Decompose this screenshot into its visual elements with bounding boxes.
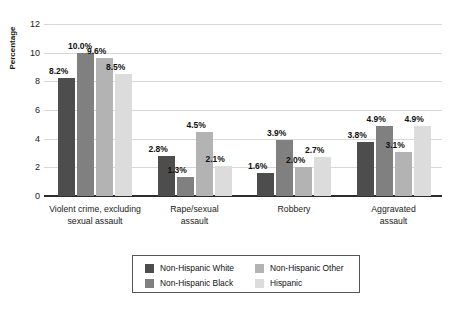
bar[interactable] (215, 166, 232, 196)
bar-value-label: 2.0% (286, 155, 305, 165)
bar[interactable] (295, 167, 312, 196)
bar-group: 1.6%3.9%2.0%2.7% (257, 24, 331, 196)
bar[interactable] (395, 152, 412, 196)
legend-item[interactable]: Non-Hispanic Other (255, 262, 344, 274)
bar-value-label: 2.1% (206, 154, 225, 164)
y-axis-tick-label: 4 (10, 134, 40, 144)
bar[interactable] (257, 173, 274, 196)
bar-value-label: 8.5% (106, 62, 125, 72)
bar-value-label: 3.9% (267, 128, 286, 138)
bar[interactable] (77, 53, 94, 196)
y-axis-tick-label: 10 (10, 48, 40, 58)
bar[interactable] (376, 126, 393, 196)
legend-color-swatch (255, 264, 264, 273)
bar[interactable] (115, 74, 132, 196)
legend-color-swatch (145, 279, 154, 288)
legend-label: Hispanic (270, 278, 302, 288)
plot-area: 8.2%10.0%9.6%8.5%2.8%1.3%4.5%2.1%1.6%3.9… (44, 24, 442, 196)
bar-value-label: 2.8% (149, 144, 168, 154)
bar[interactable] (276, 140, 293, 196)
bar-value-label: 1.3% (168, 165, 187, 175)
bar-group: 3.8%4.9%3.1%4.9% (357, 24, 431, 196)
x-axis-category-label: Aggravatedassault (329, 204, 459, 227)
bar[interactable] (357, 142, 374, 196)
bar[interactable] (58, 78, 75, 196)
bar-value-label: 1.6% (248, 161, 267, 171)
legend-label: Non-Hispanic Other (270, 263, 344, 273)
bar-value-label: 3.8% (348, 130, 367, 140)
bar-value-label: 4.9% (405, 114, 424, 124)
legend-item[interactable]: Hispanic (255, 277, 302, 289)
bar[interactable] (158, 156, 175, 196)
legend-item[interactable]: Non-Hispanic Black (145, 277, 233, 289)
bar-group: 8.2%10.0%9.6%8.5% (58, 24, 132, 196)
bar[interactable] (96, 58, 113, 196)
y-axis-tick-label: 8 (10, 76, 40, 86)
legend-label: Non-Hispanic Black (160, 278, 233, 288)
bar-value-label: 2.7% (305, 145, 324, 155)
legend-color-swatch (255, 279, 264, 288)
legend: Non-Hispanic WhiteNon-Hispanic BlackNon-… (132, 255, 360, 293)
legend-item[interactable]: Non-Hispanic White (145, 262, 234, 274)
bar-group: 2.8%1.3%4.5%2.1% (158, 24, 232, 196)
bar[interactable] (414, 126, 431, 196)
legend-label: Non-Hispanic White (160, 263, 234, 273)
y-axis-tick-labels: 121086420 (6, 24, 40, 196)
grouped-bar-chart: Percentage 121086420 8.2%10.0%9.6%8.5%2.… (0, 0, 459, 315)
y-axis-tick-label: 12 (10, 19, 40, 29)
bar-value-label: 9.6% (87, 46, 106, 56)
bar-value-label: 3.1% (386, 140, 405, 150)
legend-color-swatch (145, 264, 154, 273)
bar-value-label: 8.2% (49, 66, 68, 76)
y-axis-tick-label: 0 (10, 191, 40, 201)
bar-value-label: 4.9% (367, 114, 386, 124)
y-axis-tick-label: 2 (10, 162, 40, 172)
bar[interactable] (177, 177, 194, 196)
bar-value-label: 4.5% (187, 120, 206, 130)
bar[interactable] (314, 157, 331, 196)
x-axis-category-labels: Violent crime, excludingsexual assaultRa… (44, 201, 442, 241)
y-axis-tick-label: 6 (10, 105, 40, 115)
